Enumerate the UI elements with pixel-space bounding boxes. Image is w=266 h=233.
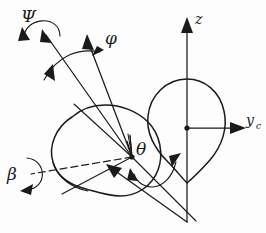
yc-axis <box>187 122 246 134</box>
beta-angle-label: β <box>6 164 17 184</box>
orientation-diagram-svg: Ψ φ β z y c <box>0 0 266 233</box>
z-axis-label: z <box>194 11 203 27</box>
diagonal-line <box>106 164 187 222</box>
psi-axis-line <box>46 35 132 157</box>
z-axis <box>181 17 193 222</box>
diagram-canvas: Ψ φ β z y c <box>0 0 266 233</box>
phi-axis-line <box>89 44 132 157</box>
theta-angle-label: θ <box>136 139 146 159</box>
left-body-spoke-b <box>74 104 132 157</box>
z-axis-arrowhead <box>181 17 193 33</box>
yc-axis-label: y <box>245 112 255 128</box>
theta-arc-arrowhead-lower <box>127 168 138 181</box>
beta-arc-arrowhead <box>20 184 33 195</box>
psi-axis-arrowhead <box>40 29 52 43</box>
psi-arc-arrowhead-left <box>18 27 30 41</box>
yc-axis-subscript: c <box>256 121 261 131</box>
phi-axis <box>82 34 132 157</box>
beta-arc-path <box>27 158 42 190</box>
psi-angle-label: Ψ <box>21 6 37 26</box>
phi-axis-arrowhead <box>82 34 94 50</box>
diagonal-line-arrowhead <box>106 164 122 178</box>
yc-axis-arrowhead <box>230 122 246 134</box>
phi-angle-label: φ <box>105 28 117 48</box>
beta-rotation-arc <box>20 158 42 195</box>
